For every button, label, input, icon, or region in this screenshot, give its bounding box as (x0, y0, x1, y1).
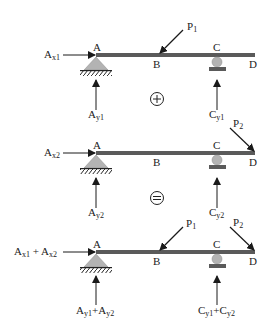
point-label-d: D (249, 58, 257, 70)
reaction-label-cy1: Cy1 (209, 108, 224, 122)
load-arrow-p1 (160, 30, 183, 53)
load-label-p1: P1 (186, 217, 196, 231)
beam (96, 250, 255, 254)
reaction-label-cy-sum: Cy1+Cy2 (198, 304, 235, 318)
load-arrow-p2 (230, 128, 254, 151)
roller-support-icon (209, 155, 226, 169)
load-case-2: A B C D Ax2 Ay2 Cy2 P2 (44, 117, 257, 220)
reaction-label-ax2: Ax2 (44, 146, 60, 160)
pin-support-icon (80, 254, 112, 273)
point-label-b: B (153, 58, 160, 70)
load-label-p1: P1 (187, 20, 197, 34)
point-label-a: A (93, 41, 101, 53)
point-label-b: B (153, 255, 160, 267)
point-label-c: C (213, 238, 220, 250)
load-case-1: A B C D Ax1 Ay1 Cy1 P1 (44, 20, 257, 122)
point-label-d: D (249, 255, 257, 267)
pin-support-icon (80, 57, 112, 76)
reaction-label-ax1: Ax1 (44, 48, 60, 62)
point-label-b: B (153, 156, 160, 168)
point-label-d: D (249, 156, 257, 168)
load-arrow-p2 (230, 227, 254, 250)
beam (96, 53, 255, 57)
reaction-label-cy2: Cy2 (209, 206, 224, 220)
superposition-diagram: A B C D Ax1 Ay1 Cy1 P1 A B (0, 0, 274, 334)
load-label-p2: P2 (233, 216, 243, 230)
roller-support-icon (209, 57, 226, 71)
point-label-a: A (93, 139, 101, 151)
pin-support-icon (80, 155, 112, 174)
plus-operator-icon (151, 93, 164, 106)
point-label-a: A (93, 238, 101, 250)
combined-load-case: A B C D Ax1 + Ax2 Ay1+Ay2 Cy1+Cy2 P1 P2 (14, 216, 257, 318)
reaction-label-ay-sum: Ay1+Ay2 (76, 304, 114, 318)
beam (96, 151, 255, 155)
equals-operator-icon (151, 192, 164, 205)
roller-support-icon (209, 254, 226, 268)
load-arrow-p1 (160, 227, 183, 250)
reaction-label-ay2: Ay2 (88, 206, 104, 220)
reaction-label-ay1: Ay1 (88, 108, 104, 122)
point-label-c: C (213, 139, 220, 151)
point-label-c: C (213, 41, 220, 53)
reaction-label-ax-sum: Ax1 + Ax2 (14, 245, 57, 259)
load-label-p2: P2 (233, 117, 243, 131)
